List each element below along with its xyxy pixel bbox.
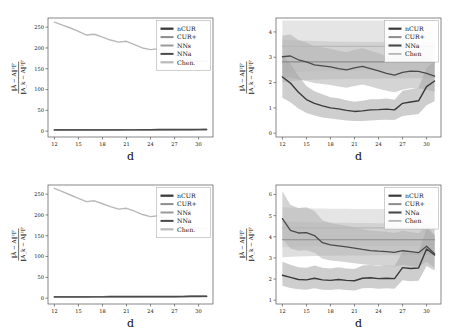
svg-text:12: 12 (51, 141, 57, 147)
svg-text:0: 0 (269, 130, 272, 136)
svg-text:27: 27 (171, 141, 177, 147)
svg-text:30: 30 (423, 308, 429, 314)
svg-text:150: 150 (34, 66, 44, 72)
svg-text:30: 30 (423, 141, 429, 147)
legend: nCURCUR+NNaChen (385, 188, 439, 230)
svg-text:0: 0 (41, 128, 44, 134)
svg-text:27: 27 (399, 308, 405, 314)
svg-text:24: 24 (375, 308, 381, 314)
legend-label: CUR+ (177, 33, 197, 40)
svg-text:1: 1 (269, 105, 272, 111)
panel-bottom-right: 12151821242730123456d‖Ã − A‖²F‖A_k − A‖²… (228, 167, 456, 334)
svg-text:12: 12 (51, 308, 57, 314)
legend: nCURCUR+NNaChen (385, 21, 439, 63)
legend-label: Chen. (177, 59, 195, 66)
panel-top-right: 1215182124273001234d‖Ã − A‖²F‖A_k − A‖²F… (228, 0, 456, 167)
svg-text:2: 2 (269, 276, 272, 282)
svg-text:4: 4 (269, 234, 272, 240)
svg-text:24: 24 (147, 141, 153, 147)
svg-text:21: 21 (123, 141, 129, 147)
x-axis-label: d (355, 150, 362, 163)
legend: nCURCUR+NNsNNaChen. (157, 21, 211, 71)
svg-text:0: 0 (41, 295, 44, 301)
svg-text:21: 21 (351, 141, 357, 147)
svg-text:15: 15 (303, 141, 309, 147)
svg-text:27: 27 (171, 308, 177, 314)
plot-top-right: 1215182124273001234d‖Ã − A‖²F‖A_k − A‖²F… (228, 0, 456, 167)
legend-label: Chen (405, 217, 421, 224)
svg-text:24: 24 (375, 141, 381, 147)
svg-text:18: 18 (99, 141, 105, 147)
svg-text:4: 4 (269, 29, 272, 35)
svg-text:18: 18 (327, 141, 333, 147)
plot-bottom-left: 12151821242730050100150200250d‖Ã − A‖²F‖… (0, 167, 228, 334)
svg-text:‖Ã − A‖²F: ‖Ã − A‖²F (238, 230, 246, 258)
panel-top-left: 12151821242730050100150200250d‖Ã − A‖²F‖… (0, 0, 228, 167)
svg-text:200: 200 (34, 212, 44, 218)
legend-label: Chen (405, 50, 421, 57)
svg-text:3: 3 (269, 54, 272, 60)
svg-text:18: 18 (327, 308, 333, 314)
svg-text:100: 100 (34, 253, 44, 259)
legend-label: CUR+ (405, 33, 425, 40)
svg-text:15: 15 (75, 308, 81, 314)
y-axis-label: ‖Ã − A‖²F‖A_k − A‖²F (10, 227, 27, 261)
svg-text:‖A_k − A‖²F: ‖A_k − A‖²F (248, 227, 255, 261)
svg-text:18: 18 (99, 308, 105, 314)
legend-label: CUR+ (405, 200, 425, 207)
svg-text:15: 15 (303, 308, 309, 314)
svg-text:15: 15 (75, 141, 81, 147)
svg-text:‖Ã − A‖²F: ‖Ã − A‖²F (10, 230, 18, 258)
svg-text:30: 30 (195, 308, 201, 314)
panel-bottom-left: 12151821242730050100150200250d‖Ã − A‖²F‖… (0, 167, 228, 334)
svg-text:200: 200 (34, 45, 44, 51)
plot-top-left: 12151821242730050100150200250d‖Ã − A‖²F‖… (0, 0, 228, 167)
svg-text:21: 21 (123, 308, 129, 314)
x-axis-label: d (127, 150, 134, 163)
legend: nCURCUR+NNsNNaChen. (157, 188, 211, 238)
legend-label: NNa (405, 209, 420, 216)
svg-text:24: 24 (147, 308, 153, 314)
svg-text:150: 150 (34, 233, 44, 239)
svg-text:12: 12 (279, 308, 285, 314)
svg-text:12: 12 (279, 141, 285, 147)
plot-bottom-right: 12151821242730123456d‖Ã − A‖²F‖A_k − A‖²… (228, 167, 456, 334)
svg-text:‖A_k − A‖²F: ‖A_k − A‖²F (20, 60, 27, 94)
legend-label: CUR+ (177, 200, 197, 207)
legend-label: NNs (177, 209, 191, 216)
legend-label: NNa (177, 50, 192, 57)
svg-text:50: 50 (38, 274, 44, 280)
svg-text:6: 6 (269, 191, 272, 197)
y-axis-label: ‖Ã − A‖²F‖A_k − A‖²F (238, 227, 255, 261)
svg-text:50: 50 (38, 107, 44, 113)
legend-label: nCUR (177, 192, 196, 199)
svg-text:21: 21 (351, 308, 357, 314)
svg-text:‖Ã − A‖²F: ‖Ã − A‖²F (238, 63, 246, 91)
svg-text:1: 1 (269, 297, 272, 303)
legend-label: nCUR (405, 192, 424, 199)
svg-text:27: 27 (399, 141, 405, 147)
legend-label: Chen. (177, 226, 195, 233)
y-axis-label: ‖Ã − A‖²F‖A_k − A‖²F (238, 60, 255, 94)
legend-label: NNa (177, 217, 192, 224)
legend-label: nCUR (405, 25, 424, 32)
svg-text:5: 5 (269, 213, 272, 219)
legend-label: NNa (405, 42, 420, 49)
svg-text:3: 3 (269, 255, 272, 261)
svg-text:250: 250 (34, 191, 44, 197)
svg-text:2: 2 (269, 79, 272, 85)
figure-grid: 12151821242730050100150200250d‖Ã − A‖²F‖… (0, 0, 456, 335)
x-axis-label: d (355, 317, 362, 330)
x-axis-label: d (127, 317, 134, 330)
legend-label: nCUR (177, 25, 196, 32)
svg-text:‖A_k − A‖²F: ‖A_k − A‖²F (248, 60, 255, 94)
svg-text:‖A_k − A‖²F: ‖A_k − A‖²F (20, 227, 27, 261)
legend-label: NNs (177, 42, 191, 49)
svg-text:‖Ã − A‖²F: ‖Ã − A‖²F (10, 63, 18, 91)
svg-text:100: 100 (34, 86, 44, 92)
y-axis-label: ‖Ã − A‖²F‖A_k − A‖²F (10, 60, 27, 94)
svg-text:250: 250 (34, 24, 44, 30)
svg-text:30: 30 (195, 141, 201, 147)
